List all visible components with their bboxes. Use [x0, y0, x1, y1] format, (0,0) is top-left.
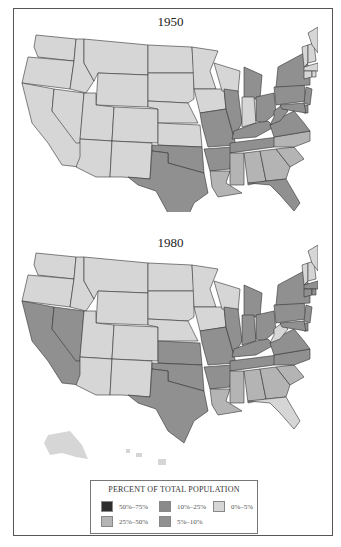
legend-item-25-50: 25%–50%	[101, 516, 148, 527]
state-ri	[312, 289, 316, 295]
state-hi	[126, 449, 130, 453]
state-ms	[230, 153, 244, 185]
legend-item-10-25: 10%–25%	[159, 501, 206, 512]
state-nm	[110, 141, 152, 179]
state-sd	[148, 291, 194, 321]
state-mi	[244, 67, 262, 99]
state-wa	[34, 253, 76, 279]
state-ri	[312, 71, 316, 77]
state-hi	[136, 453, 142, 457]
state-mn	[192, 47, 218, 89]
state-nd	[148, 263, 194, 291]
state-ak	[44, 431, 88, 459]
state-ia	[194, 89, 226, 113]
state-wy	[96, 73, 148, 107]
legend-title: PERCENT OF TOTAL POPULATION	[91, 485, 257, 494]
state-ar	[204, 365, 232, 389]
state-ks	[158, 341, 202, 365]
legend-item-0-5: 0%–5%	[213, 501, 253, 512]
state-fl	[248, 397, 300, 429]
swatch-50-75	[101, 501, 113, 512]
state-fl	[248, 179, 300, 211]
state-wi	[214, 281, 240, 311]
state-nm	[110, 359, 152, 397]
us-map-1950	[18, 27, 334, 212]
state-mn	[192, 265, 218, 307]
state-ct	[304, 71, 312, 79]
state-ks	[158, 123, 202, 147]
state-mi	[244, 285, 262, 317]
state-az	[76, 357, 112, 395]
swatch-25-50	[101, 516, 113, 527]
us-map-1980	[18, 245, 334, 475]
swatch-0-5	[213, 501, 225, 512]
state-co	[112, 107, 158, 143]
state-wa	[34, 35, 76, 61]
legend-item-5-10: 5%–10%	[159, 516, 203, 527]
state-wi	[214, 63, 240, 93]
state-in	[242, 97, 256, 127]
state-ar	[204, 147, 232, 171]
state-in	[242, 315, 256, 345]
state-az	[76, 139, 112, 177]
state-hi	[158, 459, 166, 465]
legend: PERCENT OF TOTAL POPULATION 50%–75% 25%–…	[90, 480, 258, 534]
legend-item-50-75: 50%–75%	[101, 501, 148, 512]
state-ms	[230, 371, 244, 403]
state-nj	[304, 87, 312, 105]
state-co	[112, 325, 158, 361]
state-ia	[194, 307, 226, 331]
swatch-10-25	[159, 501, 171, 512]
state-ct	[304, 289, 312, 297]
state-sd	[148, 73, 194, 103]
state-wy	[96, 291, 148, 325]
swatch-5-10	[159, 516, 171, 527]
state-nj	[304, 305, 312, 323]
state-nd	[148, 45, 194, 73]
